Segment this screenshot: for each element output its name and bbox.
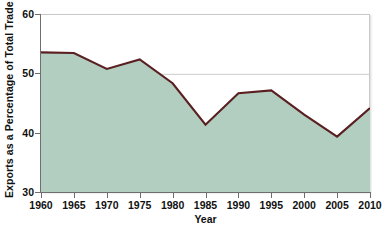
x-tick-mark-1990 — [238, 193, 239, 198]
x-tick-mark-2000 — [304, 193, 305, 198]
x-tick-mark-2010 — [370, 193, 371, 198]
x-tick-mark-1980 — [173, 193, 174, 198]
plot-area — [41, 14, 370, 192]
x-tick-mark-1970 — [107, 193, 108, 198]
y-tick-label-40: 40 — [10, 128, 34, 138]
x-tick-mark-2005 — [337, 193, 338, 198]
plot-svg — [41, 15, 370, 193]
y-tick-label-30: 30 — [10, 187, 34, 197]
x-tick-mark-1960 — [41, 193, 42, 198]
x-tick-mark-1995 — [271, 193, 272, 198]
y-tick-mark-60 — [35, 14, 40, 15]
y-tick-mark-40 — [35, 133, 40, 134]
x-axis-title: Year — [41, 213, 370, 225]
y-axis-line — [40, 14, 41, 193]
y-tick-label-50: 50 — [10, 68, 34, 78]
y-tick-mark-50 — [35, 73, 40, 74]
x-tick-mark-1975 — [140, 193, 141, 198]
y-tick-mark-30 — [35, 192, 40, 193]
x-tick-mark-1965 — [74, 193, 75, 198]
area-series-fill — [41, 52, 370, 193]
x-tick-mark-1985 — [206, 193, 207, 198]
exports-percentage-area-chart: Exports as a Percentage of Total Trade 3… — [0, 0, 387, 233]
y-tick-label-60: 60 — [10, 9, 34, 19]
x-tick-label-2010: 2010 — [350, 200, 387, 211]
y-axis-title: Exports as a Percentage of Total Trade — [1, 2, 17, 198]
